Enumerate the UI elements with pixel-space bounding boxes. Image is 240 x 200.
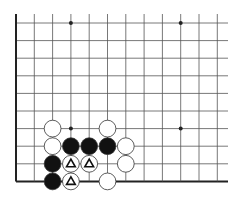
star-point-icon [179,21,183,25]
white-stone [63,155,80,172]
star-point-icon [69,21,73,25]
white-stone [99,173,116,190]
black-stone [44,155,61,172]
white-stone [44,138,61,155]
black-stone [99,138,116,155]
black-stone-icon [99,138,116,155]
white-stone-icon [44,138,61,155]
black-stone-icon [63,138,80,155]
white-stone [44,120,61,137]
black-stone-icon [81,138,98,155]
white-stone [81,155,98,172]
white-stone-icon [117,138,134,155]
black-stone-icon [44,173,61,190]
black-stone-icon [44,155,61,172]
white-stone [117,138,134,155]
white-stone-icon [44,120,61,137]
go-board [0,0,240,200]
star-point-icon [69,127,73,131]
star-point-icon [179,127,183,131]
black-stone [63,138,80,155]
white-stone [117,155,134,172]
black-stone [81,138,98,155]
white-stone-icon [99,120,116,137]
white-stone [99,120,116,137]
white-stone-icon [99,173,116,190]
white-stone [63,173,80,190]
black-stone [44,173,61,190]
white-stone-icon [117,155,134,172]
